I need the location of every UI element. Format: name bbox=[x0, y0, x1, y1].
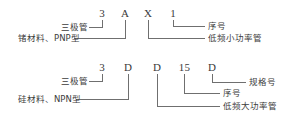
label-serial-number-bottom: 序号 bbox=[223, 89, 241, 98]
code-char-d3-bottom: D bbox=[207, 62, 217, 73]
code-char-15-bottom: 15 bbox=[178, 62, 191, 73]
label-low-freq-high-power: 低频大功率管 bbox=[223, 102, 277, 111]
code-char-1-top: 1 bbox=[168, 8, 178, 19]
leader-line-vertical-15-bottom bbox=[184, 74, 185, 94]
label-serial-number-top: 序号 bbox=[208, 22, 226, 31]
leader-line-vertical-x-top bbox=[148, 20, 149, 39]
code-char-a-top: A bbox=[120, 8, 130, 19]
code-char-d1-bottom: D bbox=[123, 62, 133, 73]
leader-line-horizontal-15-bottom bbox=[184, 93, 220, 94]
code-char-x-top: X bbox=[143, 8, 153, 19]
code-char-3-top: 3 bbox=[97, 8, 107, 19]
label-specification-number: 规格号 bbox=[249, 78, 276, 87]
leader-line-horizontal-d2-bottom bbox=[157, 106, 220, 107]
label-transistor-top: 三极管 bbox=[60, 23, 88, 32]
leader-line-vertical-a-top bbox=[125, 20, 126, 39]
leader-line-horizontal-a-top bbox=[74, 38, 126, 39]
leader-line-horizontal-d1-bottom bbox=[76, 99, 129, 100]
label-germanium-pnp: 锗材料、PNP型 bbox=[18, 34, 73, 43]
code-char-d2-bottom: D bbox=[152, 62, 162, 73]
leader-line-horizontal-x-top bbox=[148, 38, 205, 39]
leader-line-horizontal-1-top bbox=[173, 26, 205, 27]
leader-line-horizontal-3-top bbox=[89, 27, 103, 28]
leader-line-vertical-d1-bottom bbox=[128, 74, 129, 100]
transistor-naming-diagram: 3 A X 1 三极管 锗材料、PNP型 序号 低频小功率管 3 D D 15 … bbox=[0, 0, 299, 121]
code-char-3-bottom: 3 bbox=[97, 62, 107, 73]
label-transistor-bottom: 三极管 bbox=[60, 77, 88, 86]
leader-line-horizontal-d3-bottom bbox=[212, 82, 246, 83]
leader-line-vertical-d2-bottom bbox=[157, 74, 158, 107]
label-low-freq-small-power: 低频小功率管 bbox=[208, 34, 262, 43]
label-silicon-npn: 硅材料、NPN型 bbox=[18, 95, 74, 104]
leader-line-horizontal-3-bottom bbox=[89, 81, 103, 82]
